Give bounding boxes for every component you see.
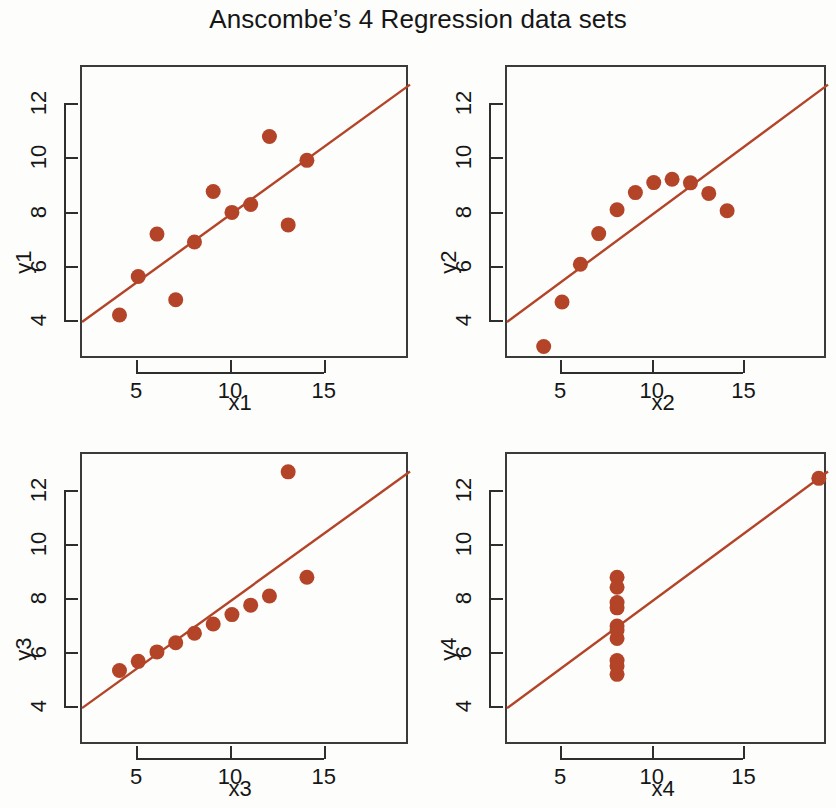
panel-3-x-tick (230, 746, 232, 759)
data-point (243, 197, 258, 212)
data-point (149, 227, 164, 242)
panel-1-y-tick (64, 320, 78, 322)
panel-2: y2 x2 510154681012 (425, 55, 836, 420)
panel-3-canvas (82, 454, 410, 746)
panel-1: y1 x1 510154681012 (0, 55, 418, 420)
panel-3-y-tick (64, 706, 78, 708)
panel-3-y-tick (64, 598, 78, 600)
panel-2-y-tick-label: 4 (453, 305, 475, 335)
panel-2-x-tick (560, 360, 562, 373)
regression-line (507, 472, 828, 709)
panel-1-y-tick (64, 157, 78, 159)
panel-2-x-tick-label: 15 (713, 380, 773, 402)
panel-4-y-tick (489, 598, 503, 600)
data-point (149, 644, 164, 659)
panel-3-x-tick-label: 15 (294, 766, 354, 788)
panel-1-y-tick (64, 103, 78, 105)
panel-1-x-tick (324, 360, 326, 373)
panel-3-y-tick-label: 4 (28, 691, 50, 721)
panel-2-x-tick (652, 360, 654, 373)
regression-line (82, 472, 410, 709)
data-point (683, 175, 698, 190)
panel-1-x-tick (230, 360, 232, 373)
panel-3-y-tick (64, 652, 78, 654)
panel-4-x-tick (560, 746, 562, 759)
panel-4-y-tick-label: 12 (453, 475, 475, 505)
panel-2-y-tick (489, 212, 503, 214)
panel-4-y-tick-label: 8 (453, 583, 475, 613)
panel-4-x-tick (743, 746, 745, 759)
panel-4-y-tick (489, 490, 503, 492)
panel-2-y-tick-label: 12 (453, 88, 475, 118)
data-point (131, 654, 146, 669)
data-point (610, 623, 625, 638)
panel-3-x-tick (324, 746, 326, 759)
data-point (299, 153, 314, 168)
panel-4-canvas (507, 454, 828, 746)
panel-3-plot-area (80, 452, 408, 744)
panel-2-y-tick-label: 8 (453, 197, 475, 227)
data-point (187, 234, 202, 249)
panel-4-x-tick-label: 15 (713, 766, 773, 788)
anscombe-quartet-figure: Anscombe’s 4 Regression data sets y1 x1 … (0, 0, 836, 808)
data-point (610, 658, 625, 673)
data-point (720, 203, 735, 218)
data-point (555, 294, 570, 309)
panel-4-y-tick (489, 544, 503, 546)
panel-1-plot-area (80, 65, 408, 358)
panel-3-y-tick-label: 6 (28, 637, 50, 667)
data-point (591, 226, 606, 241)
data-point (610, 202, 625, 217)
panel-3-x-tick-label: 10 (200, 766, 260, 788)
panel-2-canvas (507, 67, 828, 360)
panel-3-x-tick (136, 746, 138, 759)
data-point (573, 257, 588, 272)
data-point (281, 464, 296, 479)
data-point (168, 635, 183, 650)
panel-4: y4 x4 510154681012 (425, 442, 836, 808)
panel-2-y-tick-label: 6 (453, 251, 475, 281)
panel-4-y-tick-label: 4 (453, 691, 475, 721)
data-point (665, 172, 680, 187)
panel-4-y-tick-label: 10 (453, 529, 475, 559)
panel-1-y-tick-label: 12 (28, 88, 50, 118)
data-point (262, 588, 277, 603)
panel-2-x-tick-label: 5 (530, 380, 590, 402)
data-point (206, 617, 221, 632)
panel-3-y-tick-label: 12 (28, 475, 50, 505)
panel-3-x-tick-label: 5 (106, 766, 166, 788)
panel-3-y-tick-label: 10 (28, 529, 50, 559)
data-point (187, 626, 202, 641)
panel-4-x-tick-label: 5 (530, 766, 590, 788)
panel-2-x-tick-label: 10 (622, 380, 682, 402)
panel-4-plot-area (505, 452, 826, 744)
figure-title: Anscombe’s 4 Regression data sets (0, 4, 836, 35)
data-point (112, 663, 127, 678)
data-point (610, 580, 625, 595)
panel-2-y-tick (489, 103, 503, 105)
panel-1-canvas (82, 67, 410, 360)
data-point (701, 186, 716, 201)
data-point (206, 184, 221, 199)
data-point (628, 185, 643, 200)
data-point (168, 292, 183, 307)
panel-2-y-tick (489, 266, 503, 268)
data-point (281, 217, 296, 232)
panel-2-y-tick (489, 157, 503, 159)
panel-2-y-tick-label: 10 (453, 142, 475, 172)
panel-1-y-tick (64, 266, 78, 268)
panel-1-x-tick-label: 15 (294, 380, 354, 402)
panel-3-y-tick (64, 490, 78, 492)
data-point (536, 339, 551, 354)
data-point (243, 598, 258, 613)
data-point (299, 570, 314, 585)
panel-1-y-tick-label: 10 (28, 142, 50, 172)
panel-1-x-tick (136, 360, 138, 373)
panel-1-y-tick-label: 8 (28, 197, 50, 227)
data-point (646, 175, 661, 190)
panel-4-y-tick-label: 6 (453, 637, 475, 667)
panel-3-y-tick (64, 544, 78, 546)
panel-4-y-tick (489, 706, 503, 708)
data-point (224, 607, 239, 622)
panel-1-x-tick-label: 10 (200, 380, 260, 402)
